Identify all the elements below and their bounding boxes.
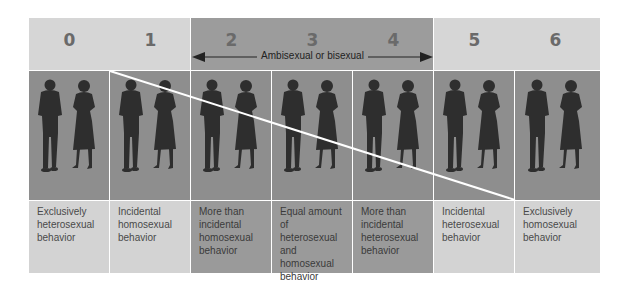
- description-0: Exclusively heterosexual behavior: [29, 201, 109, 273]
- description-3: Equal amount of heterosexual and homosex…: [272, 201, 352, 273]
- description-1: Incidental homosexual behavior: [110, 201, 190, 273]
- kinsey-scale-diagram: 0 1 2 3 4 5 6 Ambisexual or bisexual: [29, 18, 600, 273]
- description-5: Incidental heterosexual behavior: [434, 201, 514, 273]
- description-2: More than incidental homosexual behavior: [191, 201, 271, 273]
- description-4: More than incidental heterosexual behavi…: [353, 201, 433, 273]
- description-6: Exclusively homosexual behavior: [515, 201, 600, 273]
